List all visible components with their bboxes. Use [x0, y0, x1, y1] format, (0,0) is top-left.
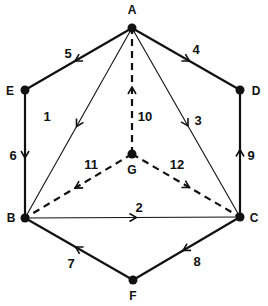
edge-2: [25, 214, 240, 222]
node-E: [21, 86, 30, 95]
node-label: A: [128, 3, 137, 17]
edge-label: 4: [192, 42, 200, 57]
node-F: [129, 276, 138, 285]
edge-label: 3: [194, 113, 201, 128]
node-label: E: [6, 84, 14, 98]
edge-line: [25, 154, 132, 218]
edge-label: 6: [9, 148, 16, 163]
node-label: D: [252, 84, 261, 98]
edge-line: [132, 28, 240, 90]
edge-label: 12: [170, 157, 184, 172]
edge-line: [133, 217, 240, 280]
edge-4: [132, 28, 240, 90]
node-D: [236, 86, 245, 95]
edge-6: [21, 90, 29, 218]
node-label: G: [127, 163, 136, 177]
edge-line: [25, 217, 240, 218]
node-G: [128, 150, 137, 159]
edge-5: [25, 28, 132, 90]
edge-label: 2: [135, 200, 142, 215]
edge-label: 5: [64, 46, 71, 61]
directed-graph-diagram: 123456789101112ABCDEFG: [0, 0, 268, 306]
edge-11: [25, 154, 132, 218]
edge-line: [132, 154, 240, 217]
edge-line: [25, 218, 133, 280]
edge-label: 9: [247, 148, 254, 163]
edge-7: [25, 218, 133, 280]
node-label: C: [250, 211, 259, 225]
edge-label: 10: [138, 109, 152, 124]
node-B: [21, 214, 30, 223]
node-layer: [21, 24, 245, 285]
edge-label: 1: [43, 109, 50, 124]
edge-label: 11: [84, 157, 98, 172]
edge-line: [25, 28, 132, 90]
edge-10: [128, 28, 136, 154]
edge-9: [236, 90, 244, 217]
edge-label: 7: [67, 256, 74, 271]
node-A: [128, 24, 137, 33]
node-label: B: [7, 211, 16, 225]
edge-8: [133, 217, 240, 280]
edge-12: [132, 154, 240, 217]
edge-label: 8: [193, 254, 200, 269]
node-label: F: [129, 289, 136, 303]
node-C: [236, 213, 245, 222]
